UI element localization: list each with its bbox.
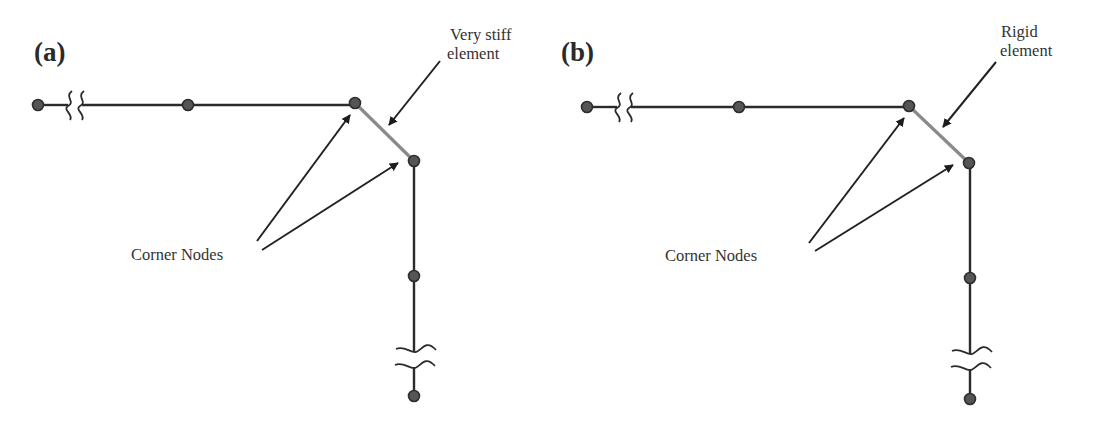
break-mark-icon bbox=[396, 345, 436, 352]
node-end-bottom bbox=[409, 391, 420, 402]
horizontal-member-b bbox=[587, 93, 909, 122]
corner-node-2 bbox=[409, 156, 420, 167]
panel-a-label: (a) bbox=[34, 37, 65, 67]
corner-node-2 bbox=[964, 158, 975, 169]
node-end-bottom bbox=[965, 394, 976, 405]
node-end-left bbox=[33, 100, 44, 111]
panel-a: (a) Very stiff element Corner Nodes bbox=[33, 25, 513, 402]
node-mid-horizontal bbox=[183, 100, 194, 111]
very-stiff-element bbox=[355, 103, 414, 161]
break-mark-icon bbox=[951, 363, 991, 370]
arrow-icon bbox=[257, 115, 350, 241]
rigid-element-label-line1: Rigid bbox=[1001, 22, 1038, 41]
node-mid-horizontal bbox=[734, 102, 745, 113]
figure-canvas: (a) Very stiff element Corner Nodes bbox=[0, 0, 1096, 434]
arrow-icon bbox=[943, 62, 996, 127]
node-mid-vertical bbox=[965, 273, 976, 284]
stiff-element-label-line2: element bbox=[447, 44, 500, 63]
break-mark-icon bbox=[395, 361, 435, 368]
panel-b: (b) Rigid element Corner Nodes bbox=[561, 22, 1053, 405]
corner-nodes-label: Corner Nodes bbox=[665, 246, 757, 265]
corner-nodes-label: Corner Nodes bbox=[131, 245, 223, 264]
panel-b-label: (b) bbox=[561, 37, 594, 67]
corner-node-1 bbox=[350, 98, 361, 109]
horizontal-member-a bbox=[38, 91, 355, 120]
node-mid-vertical bbox=[409, 271, 420, 282]
arrow-icon bbox=[389, 61, 440, 125]
node-end-left bbox=[582, 102, 593, 113]
corner-node-1 bbox=[904, 101, 915, 112]
break-mark-icon bbox=[952, 347, 992, 354]
stiff-element-label-line1: Very stiff bbox=[450, 25, 512, 44]
rigid-element bbox=[909, 106, 969, 163]
rigid-element-label-line2: element bbox=[1000, 41, 1053, 60]
